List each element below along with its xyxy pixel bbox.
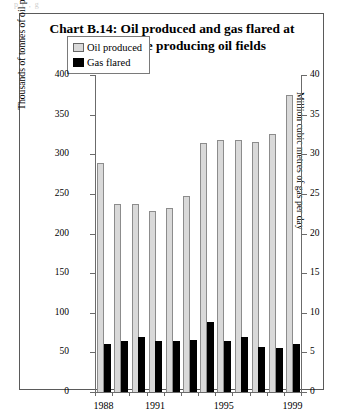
y-tick-right xyxy=(302,75,307,76)
y-tick-label-left: 200 xyxy=(29,229,69,239)
bar-gas-flared xyxy=(190,340,197,392)
y-tick-right xyxy=(302,194,307,195)
bar-gas-flared xyxy=(155,341,162,393)
legend-item-oil-produced: Oil produced xyxy=(73,41,142,54)
x-tick xyxy=(164,392,165,396)
bar-gas-flared xyxy=(276,348,283,392)
x-tick-label: 1991 xyxy=(145,400,165,411)
x-tick xyxy=(284,392,285,396)
y-tick-label-left: 0 xyxy=(29,387,69,397)
y-tick-left xyxy=(90,273,95,274)
x-tick xyxy=(267,392,268,396)
plot-area: 0501001502002503003504000510152025303540… xyxy=(76,75,302,392)
y-tick-label-right: 20 xyxy=(310,229,344,239)
bar-gas-flared xyxy=(104,344,111,392)
y-tick-right xyxy=(302,313,307,314)
chart-legend: Oil produced Gas flared xyxy=(67,36,150,74)
bar-gas-flared xyxy=(224,341,231,392)
bar-gas-flared xyxy=(241,337,248,392)
chart-frame: Chart B.14: Oil produced and gas flared … xyxy=(19,13,324,390)
x-tick-label: 1988 xyxy=(94,400,114,411)
y-tick-right xyxy=(302,234,307,235)
y-tick-label-right: 25 xyxy=(310,189,344,199)
x-tick xyxy=(129,392,130,396)
y-tick-label-right: 15 xyxy=(310,268,344,278)
y-tick-left xyxy=(90,313,95,314)
y-tick-left xyxy=(90,115,95,116)
y-tick-left xyxy=(90,154,95,155)
bar-gas-flared xyxy=(138,337,145,392)
bar-gas-flared xyxy=(207,322,214,392)
bar-gas-flared xyxy=(293,344,300,392)
y-tick-left xyxy=(90,352,95,353)
legend-item-gas-flared: Gas flared xyxy=(73,56,142,69)
y-tick-left xyxy=(90,75,95,76)
chart-title-line1: Chart B.14: Oil produced and gas flared … xyxy=(49,21,294,36)
y-tick-label-left: 400 xyxy=(29,70,69,80)
y-tick-label-right: 5 xyxy=(310,347,344,357)
y-tick-label-left: 350 xyxy=(29,110,69,120)
x-tick xyxy=(147,392,148,396)
legend-label-gas-flared: Gas flared xyxy=(87,57,130,68)
y-tick-label-right: 30 xyxy=(310,149,344,159)
bar-gas-flared xyxy=(121,341,128,393)
x-tick xyxy=(112,392,113,396)
y-tick-right xyxy=(302,115,307,116)
y-tick-label-left: 300 xyxy=(29,149,69,159)
x-tick xyxy=(181,392,182,396)
y-tick-label-left: 50 xyxy=(29,347,69,357)
x-tick xyxy=(198,392,199,396)
chart-page: p ( , g Chart B.14: Oil produced and gas… xyxy=(0,0,344,419)
axis-line-left xyxy=(95,75,96,392)
y-tick-right xyxy=(302,352,307,353)
x-tick-label: 1999 xyxy=(282,400,302,411)
bar-gas-flared xyxy=(173,341,180,393)
x-tick xyxy=(301,392,302,396)
y-tick-right xyxy=(302,392,307,393)
y-tick-left xyxy=(90,194,95,195)
y-tick-label-right: 35 xyxy=(310,110,344,120)
y-tick-right xyxy=(302,273,307,274)
x-tick xyxy=(232,392,233,396)
y-tick-label-left: 100 xyxy=(29,308,69,318)
y-tick-right xyxy=(302,154,307,155)
y-axis-label-left: Thousands of tonnes of oil per day xyxy=(16,0,27,110)
legend-swatch-gas-icon xyxy=(73,58,84,67)
y-tick-label-right: 0 xyxy=(310,387,344,397)
y-tick-label-left: 150 xyxy=(29,268,69,278)
y-tick-left xyxy=(90,234,95,235)
cut-off-header-text: p ( , g xyxy=(14,0,330,10)
x-tick xyxy=(250,392,251,396)
y-tick-label-right: 40 xyxy=(310,70,344,80)
y-tick-label-right: 10 xyxy=(310,308,344,318)
legend-swatch-oil-icon xyxy=(73,43,84,52)
x-tick xyxy=(215,392,216,396)
bar-gas-flared xyxy=(258,347,265,392)
legend-label-oil-produced: Oil produced xyxy=(87,42,142,53)
x-tick xyxy=(95,392,96,396)
y-tick-label-left: 250 xyxy=(29,189,69,199)
x-tick-label: 1995 xyxy=(214,400,234,411)
